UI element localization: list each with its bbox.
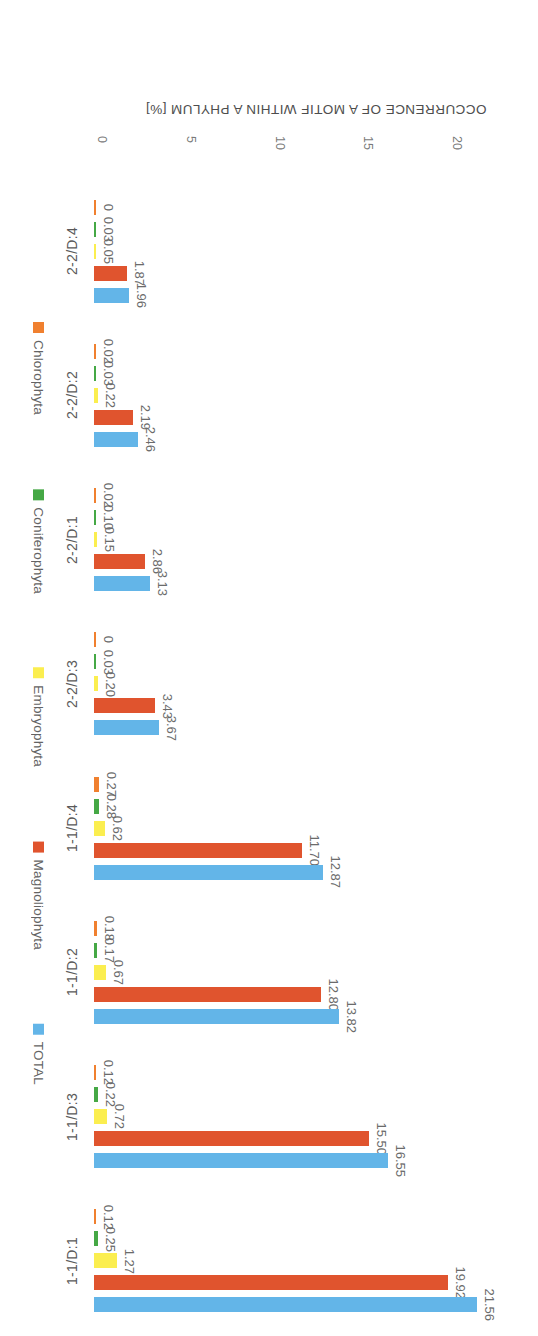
- legend-label: Chlorophyta: [31, 340, 46, 415]
- bar-row: 3.13: [94, 576, 538, 591]
- bar-group: 00.030.203.433.672-2/D:3: [94, 615, 538, 753]
- legend-item-embryophyta[interactable]: Embryophyta: [31, 668, 46, 768]
- legend-item-magnoliophyta[interactable]: Magnoliophyta: [31, 841, 46, 949]
- bar[interactable]: [94, 1087, 98, 1102]
- bar[interactable]: [94, 777, 99, 792]
- bar[interactable]: [94, 943, 97, 958]
- bar[interactable]: [94, 1065, 96, 1080]
- category-label: 1-1/D:3: [64, 1093, 80, 1141]
- bar[interactable]: [94, 1254, 117, 1269]
- bar[interactable]: [94, 410, 133, 425]
- value-axis: 0510152025: [94, 136, 538, 180]
- legend-swatch-icon: [33, 841, 44, 852]
- bar[interactable]: [94, 720, 159, 735]
- bar[interactable]: [94, 266, 127, 281]
- bar-row: 0.02: [94, 488, 538, 503]
- bar-value-label: 11.70: [308, 834, 321, 866]
- bar[interactable]: [94, 799, 99, 814]
- bar-value-label: 1.96: [135, 282, 148, 307]
- bar-row: 19.92: [94, 1276, 538, 1291]
- bar-value-label: 16.55: [394, 1144, 407, 1177]
- bar[interactable]: [94, 632, 96, 647]
- bar[interactable]: [94, 1009, 339, 1024]
- legend-swatch-icon: [33, 489, 44, 500]
- bar-value-label: 13.82: [345, 1000, 358, 1033]
- bar-row: 0.05: [94, 244, 538, 259]
- bar-row: 0.25: [94, 1232, 538, 1247]
- bar[interactable]: [94, 1210, 96, 1225]
- bar-row: 0.27: [94, 777, 538, 792]
- bar[interactable]: [94, 987, 321, 1002]
- legend-item-total[interactable]: TOTAL: [31, 1024, 46, 1085]
- bar[interactable]: [94, 865, 323, 880]
- bar-row: 2.19: [94, 410, 538, 425]
- bar[interactable]: [94, 965, 106, 980]
- bar[interactable]: [94, 488, 96, 503]
- bar[interactable]: [94, 1109, 107, 1124]
- bar-row: 0.03: [94, 222, 538, 237]
- bar-value-label: 3.67: [165, 715, 178, 740]
- bar-row: 2.86: [94, 554, 538, 569]
- bar[interactable]: [94, 1298, 477, 1313]
- bar-value-label: 0.25: [104, 1226, 117, 1251]
- legend-item-coniferophyta[interactable]: Coniferophyta: [31, 489, 46, 594]
- bar[interactable]: [94, 532, 97, 547]
- bar-chart: 0.120.251.2719.9221.561-1/D:10.120.220.7…: [0, 0, 538, 1336]
- bar[interactable]: [94, 510, 96, 525]
- bar-row: 12.87: [94, 865, 538, 880]
- bar[interactable]: [94, 222, 96, 237]
- bar[interactable]: [94, 843, 302, 858]
- bar-value-label: 0: [102, 636, 115, 643]
- axis-title: OCCURRENCE OF A MOTIF WITHIN A PHYLUM [%…: [94, 102, 538, 117]
- legend-swatch-icon: [33, 322, 44, 333]
- bar[interactable]: [94, 576, 150, 591]
- bar-row: 13.82: [94, 1009, 538, 1024]
- bar-row: 0.62: [94, 821, 538, 836]
- bar[interactable]: [94, 344, 96, 359]
- bar-row: 1.96: [94, 288, 538, 303]
- bar-row: 0.20: [94, 676, 538, 691]
- plot-area: 0.120.251.2719.9221.561-1/D:10.120.220.7…: [94, 90, 538, 1330]
- bar[interactable]: [94, 698, 155, 713]
- bar[interactable]: [94, 432, 138, 447]
- bar-row: 16.55: [94, 1153, 538, 1168]
- bar-group: 0.180.170.6712.8013.821-1/D:2: [94, 903, 538, 1041]
- bar[interactable]: [94, 288, 129, 303]
- bar-row: 0.12: [94, 1065, 538, 1080]
- bar-group: 0.120.251.2719.9221.561-1/D:1: [94, 1192, 538, 1330]
- bar[interactable]: [94, 244, 96, 259]
- bar[interactable]: [94, 1232, 98, 1247]
- bar-row: 0.15: [94, 532, 538, 547]
- category-label: 2-2/D:4: [64, 227, 80, 275]
- bar[interactable]: [94, 366, 96, 381]
- bar-value-label: 0.22: [104, 383, 117, 408]
- bar-value-label: 12.87: [329, 856, 342, 889]
- category-label: 1-1/D:2: [64, 948, 80, 996]
- bar[interactable]: [94, 1131, 369, 1146]
- bar[interactable]: [94, 654, 96, 669]
- bar[interactable]: [94, 821, 105, 836]
- bar[interactable]: [94, 921, 97, 936]
- bar-row: 0: [94, 632, 538, 647]
- bar-group: 00.030.051.871.962-2/D:4: [94, 182, 538, 320]
- legend-item-chlorophyta[interactable]: Chlorophyta: [31, 322, 46, 415]
- axis-tick-label: 20: [450, 136, 464, 150]
- bar[interactable]: [94, 1153, 388, 1168]
- bar-group: 0.020.030.222.192.462-2/D:2: [94, 326, 538, 464]
- bar-value-label: 0.62: [111, 816, 124, 841]
- bar-row: 3.67: [94, 720, 538, 735]
- bar-value-label: 0: [102, 203, 115, 210]
- bar[interactable]: [94, 676, 98, 691]
- bar-row: 0.17: [94, 943, 538, 958]
- bar[interactable]: [94, 200, 96, 215]
- legend-swatch-icon: [33, 668, 44, 679]
- bar-row: 1.27: [94, 1254, 538, 1269]
- bar[interactable]: [94, 388, 98, 403]
- bar-row: 0.67: [94, 965, 538, 980]
- bar-row: 12.80: [94, 987, 538, 1002]
- bar-value-label: 0.05: [102, 238, 115, 263]
- bar[interactable]: [94, 554, 145, 569]
- bar-row: 3.43: [94, 698, 538, 713]
- legend-label: Magnoliophyta: [31, 859, 46, 949]
- bar[interactable]: [94, 1276, 448, 1291]
